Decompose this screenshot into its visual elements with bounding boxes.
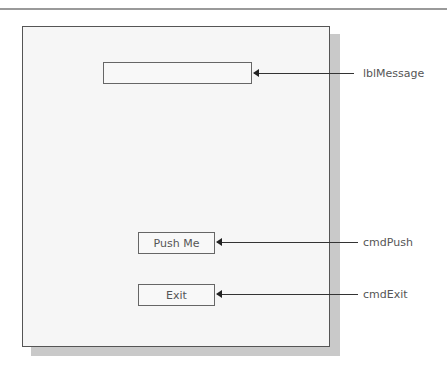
callout-arrow-cmdexit [217, 294, 358, 295]
callout-arrow-cmdpush [217, 242, 358, 243]
label-message-box [103, 62, 252, 84]
arrowhead-left-icon [216, 238, 222, 246]
push-me-button-label: Push Me [154, 237, 200, 250]
arrowhead-left-icon [216, 290, 222, 298]
callout-label-cmdexit: cmdExit [363, 288, 408, 301]
arrowhead-left-icon [253, 69, 259, 77]
callout-label-cmdpush: cmdPush [363, 236, 413, 249]
callout-label-lblmessage: lblMessage [363, 67, 424, 80]
exit-button-label: Exit [166, 289, 187, 302]
push-me-button[interactable]: Push Me [138, 232, 215, 254]
exit-button[interactable]: Exit [138, 284, 215, 306]
callout-arrow-lblmessage [254, 73, 354, 74]
top-divider [0, 8, 447, 10]
